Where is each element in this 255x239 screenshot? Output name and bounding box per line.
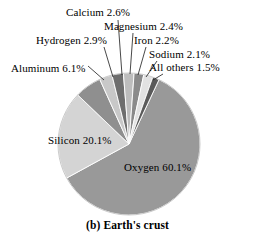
figure-caption: (b) Earth's crust (0, 219, 255, 231)
leader-line-aluminum (88, 66, 104, 80)
pie-chart-figure: Calcium 2.6% Magnesium 2.4% Hydrogen 2.9… (0, 0, 255, 239)
slice-label-oxygen: Oxygen 60.1% (124, 161, 191, 173)
leader-line-iron (138, 47, 146, 75)
slice-label-all-others: All others 1.5% (149, 61, 220, 73)
slice-label-silicon: Silicon 20.1% (48, 134, 112, 146)
slice-label-aluminum: Aluminum 6.1% (11, 62, 86, 74)
slice-label-sodium: Sodium 2.1% (149, 48, 210, 60)
slice-label-calcium: Calcium 2.6% (66, 6, 130, 18)
slice-label-magnesium: Magnesium 2.4% (104, 20, 183, 32)
leader-line-hydrogen (104, 47, 113, 77)
leader-line-magnesium (130, 33, 133, 74)
slice-label-iron: Iron 2.2% (134, 34, 179, 46)
slice-label-hydrogen: Hydrogen 2.9% (36, 34, 107, 46)
